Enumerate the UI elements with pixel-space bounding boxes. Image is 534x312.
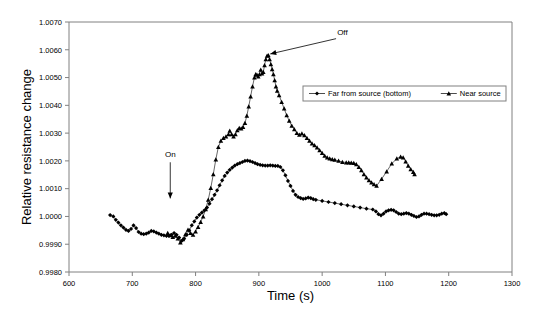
series-near-source: [165, 53, 416, 244]
data-point-marker: [245, 114, 250, 118]
y-tick-label: 1.0050: [39, 73, 62, 82]
chart-svg: 0.99800.99901.00001.00101.00201.00301.00…: [0, 0, 534, 312]
data-point-marker: [227, 129, 232, 133]
data-point-marker: [282, 106, 287, 110]
data-point-marker: [218, 183, 222, 187]
off-annotation-label: Off: [337, 28, 348, 37]
x-axis-title: Time (s): [267, 288, 314, 303]
data-point-marker: [208, 186, 213, 190]
data-point-marker: [362, 172, 367, 176]
off-annotation-arrow: [270, 39, 336, 54]
y-tick-label: 0.9980: [39, 268, 62, 277]
data-point-marker: [262, 63, 267, 67]
data-point-marker: [326, 200, 330, 204]
on-annotation-arrowhead: [168, 192, 173, 198]
data-point-marker: [210, 197, 214, 201]
x-tick-label: 1100: [377, 279, 393, 288]
data-point-marker: [214, 157, 219, 161]
x-tick-label: 800: [189, 279, 202, 288]
x-tick-label: 1300: [504, 279, 521, 288]
annotations: OnOff: [165, 28, 349, 199]
y-tick-label: 1.0000: [39, 212, 62, 221]
data-point-marker: [364, 207, 368, 211]
data-point-marker: [193, 229, 198, 233]
data-point-marker: [288, 184, 292, 188]
chart-legend: Far from source (bottom)Near source: [303, 86, 506, 101]
data-point-marker: [358, 205, 362, 209]
data-point-marker: [384, 169, 389, 173]
data-series: [108, 53, 448, 244]
data-point-marker: [275, 89, 280, 93]
data-point-marker: [216, 145, 221, 149]
data-point-marker: [271, 72, 276, 76]
data-point-marker: [345, 203, 349, 207]
series-far-from-source: [108, 159, 448, 243]
data-point-marker: [233, 132, 238, 136]
data-point-marker: [198, 220, 203, 224]
data-point-marker: [403, 159, 408, 163]
data-point-marker: [289, 124, 294, 128]
data-point-marker: [279, 100, 284, 104]
data-point-marker: [291, 189, 295, 193]
data-point-marker: [352, 204, 356, 208]
data-point-marker: [190, 223, 194, 227]
data-point-marker: [270, 67, 275, 71]
x-tick-label: 1200: [440, 279, 457, 288]
legend-label: Far from source (bottom): [328, 89, 411, 98]
data-point-marker: [258, 67, 263, 71]
data-point-marker: [212, 193, 216, 197]
data-point-marker: [192, 219, 196, 223]
data-point-marker: [207, 202, 211, 206]
on-annotation-label: On: [165, 150, 176, 159]
data-point-marker: [287, 119, 292, 123]
data-point-marker: [196, 225, 201, 229]
data-point-marker: [371, 207, 375, 211]
data-point-marker: [243, 121, 248, 125]
data-point-marker: [379, 177, 384, 181]
y-tick-label: 1.0060: [39, 46, 62, 55]
x-tick-label: 900: [253, 279, 266, 288]
data-point-marker: [269, 62, 274, 66]
y-tick-label: 1.0070: [39, 18, 62, 27]
x-tick-label: 600: [63, 279, 76, 288]
axes: 0.99800.99901.00001.00101.00201.00301.00…: [39, 18, 520, 288]
data-point-marker: [206, 197, 211, 201]
chart-figure: 0.99800.99901.00001.00101.00201.00301.00…: [0, 0, 534, 312]
data-point-marker: [277, 93, 282, 97]
data-point-marker: [286, 179, 290, 183]
data-point-marker: [250, 84, 255, 88]
data-point-marker: [248, 94, 253, 98]
data-point-marker: [333, 201, 337, 205]
data-point-marker: [272, 78, 277, 82]
y-tick-label: 0.9990: [39, 240, 62, 249]
data-point-marker: [211, 172, 216, 176]
data-point-marker: [201, 214, 206, 218]
y-tick-label: 1.0020: [39, 157, 62, 166]
data-point-marker: [406, 164, 411, 168]
data-point-marker: [165, 231, 170, 235]
data-point-marker: [241, 125, 246, 129]
data-point-marker: [246, 104, 251, 108]
y-tick-label: 1.0010: [39, 184, 62, 193]
data-point-marker: [283, 173, 287, 177]
legend-label: Near source: [460, 89, 501, 98]
series-line: [110, 161, 446, 241]
data-point-marker: [215, 188, 219, 192]
data-point-marker: [320, 199, 324, 203]
x-tick-label: 700: [126, 279, 139, 288]
axis-titles: Time (s)Relative resistance change: [19, 69, 314, 303]
data-point-marker: [339, 202, 343, 206]
data-point-marker: [220, 178, 224, 182]
off-annotation-arrowhead: [270, 50, 276, 55]
y-axis-title: Relative resistance change: [19, 69, 34, 225]
data-point-marker: [284, 113, 289, 117]
y-tick-label: 1.0040: [39, 101, 62, 110]
x-tick-label: 1000: [314, 279, 331, 288]
y-tick-label: 1.0030: [39, 129, 62, 138]
data-point-marker: [274, 84, 279, 88]
